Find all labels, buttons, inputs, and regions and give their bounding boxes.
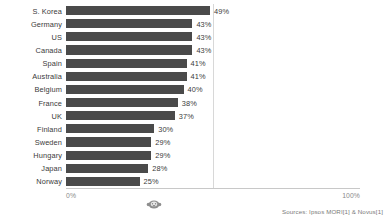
plot-area: S. Korea49%Germany43%US43%Canada43%Spain… xyxy=(66,4,360,188)
bar xyxy=(66,19,192,28)
category-label: Finland xyxy=(37,124,62,133)
value-label: 41% xyxy=(191,72,206,81)
value-label: 41% xyxy=(191,59,206,68)
value-label: 43% xyxy=(196,32,211,41)
bar-row: Belgium40% xyxy=(66,83,360,96)
value-label: 29% xyxy=(155,151,170,160)
bar-row: Sweden29% xyxy=(66,135,360,148)
bar xyxy=(66,59,187,68)
value-label: 40% xyxy=(188,85,203,94)
source-note: Sources: Ipsos MORI[1] & Novus[1] xyxy=(282,208,383,215)
x-axis-line xyxy=(66,188,360,189)
bar-row: Hungary29% xyxy=(66,149,360,162)
x-tick-0: 0% xyxy=(66,192,76,199)
bar xyxy=(66,124,154,133)
bar xyxy=(66,98,178,107)
bar xyxy=(66,164,148,173)
category-label: Japan xyxy=(41,164,62,173)
bar-row: Spain41% xyxy=(66,57,360,70)
category-label: US xyxy=(52,32,62,41)
value-label: 25% xyxy=(144,177,159,186)
bar xyxy=(66,177,140,186)
value-label: 43% xyxy=(196,45,211,54)
category-label: Sweden xyxy=(35,137,62,146)
bar-row: Germany43% xyxy=(66,17,360,30)
bar xyxy=(66,72,187,81)
category-label: Australia xyxy=(32,72,62,81)
category-label: Spain xyxy=(43,59,62,68)
bar-row: Norway25% xyxy=(66,175,360,188)
value-label: 43% xyxy=(196,19,211,28)
category-label: France xyxy=(38,98,62,107)
bar xyxy=(66,45,192,54)
value-label: 38% xyxy=(182,98,197,107)
category-label: Hungary xyxy=(33,151,62,160)
bar-row: Finland30% xyxy=(66,122,360,135)
category-label: UK xyxy=(52,111,62,120)
value-label: 49% xyxy=(214,6,229,15)
bar-chart: S. Korea49%Germany43%US43%Canada43%Spain… xyxy=(0,0,389,218)
value-label: 37% xyxy=(179,111,194,120)
bar xyxy=(66,85,184,94)
bar-rows: S. Korea49%Germany43%US43%Canada43%Spain… xyxy=(66,4,360,188)
bar xyxy=(66,32,192,41)
bar-row: Canada43% xyxy=(66,43,360,56)
bar-row: France38% xyxy=(66,96,360,109)
category-label: Germany xyxy=(31,19,62,28)
value-label: 29% xyxy=(155,137,170,146)
category-label: Belgium xyxy=(35,85,62,94)
category-label: Norway xyxy=(36,177,62,186)
bar-row: Australia41% xyxy=(66,70,360,83)
bar xyxy=(66,137,151,146)
value-label: 28% xyxy=(152,164,167,173)
category-label: Canada xyxy=(36,45,63,54)
bar-row: US43% xyxy=(66,30,360,43)
bar-row: Japan28% xyxy=(66,162,360,175)
bar-row: S. Korea49% xyxy=(66,4,360,17)
bar xyxy=(66,6,210,15)
bar xyxy=(66,151,151,160)
value-label: 30% xyxy=(158,124,173,133)
bar-row: UK37% xyxy=(66,109,360,122)
bar xyxy=(66,111,175,120)
category-label: S. Korea xyxy=(32,6,62,15)
x-tick-100: 100% xyxy=(342,192,360,199)
circular-logo-watermark-icon xyxy=(145,196,163,207)
